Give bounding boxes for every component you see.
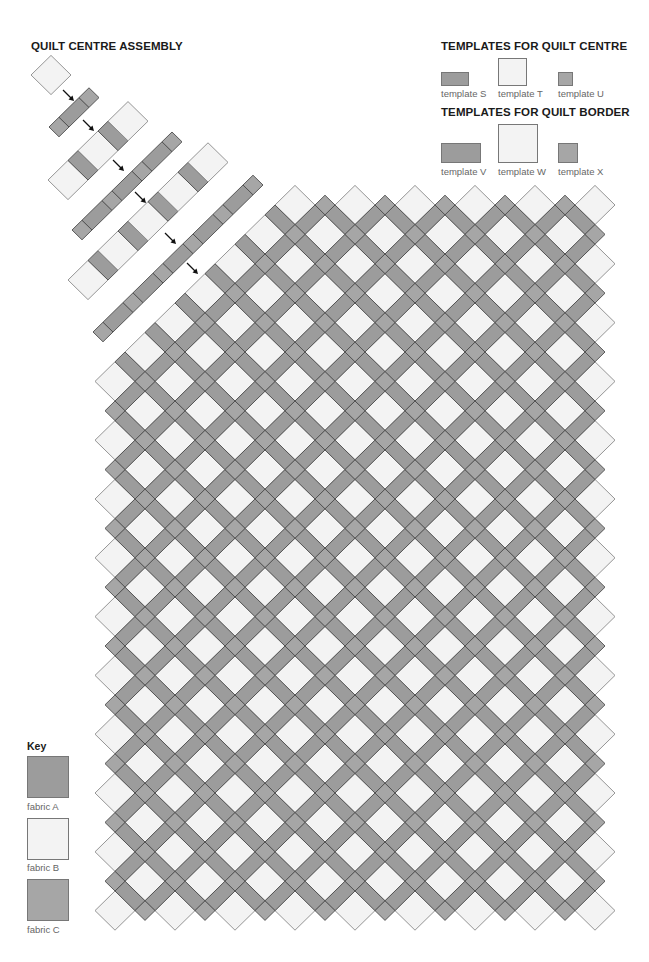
- quilt-centre: [95, 185, 615, 930]
- arrow-icon: [135, 192, 146, 203]
- arrow-icon: [165, 233, 176, 244]
- arrow-icon: [63, 90, 74, 101]
- quilt-diagram: [0, 0, 649, 962]
- arrow-icon: [187, 263, 198, 274]
- template-t-piece: [31, 55, 71, 94]
- arrow-icon: [113, 160, 124, 171]
- arrow-icon: [83, 120, 94, 131]
